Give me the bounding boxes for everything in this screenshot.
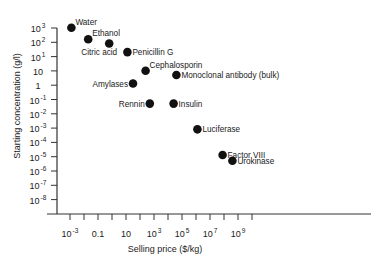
data-point: Amylases (93, 79, 138, 88)
point-label: Amylases (93, 80, 129, 89)
x-tick-label: 103 (147, 227, 162, 239)
data-point: Penicillin G (123, 48, 173, 57)
point-marker (193, 125, 202, 134)
y-tick-label: 10-3 (30, 122, 47, 134)
y-tick-label: 10-6 (30, 165, 47, 177)
point-marker (129, 79, 138, 88)
point-label: Citric acid (81, 48, 117, 57)
data-point: Luciferase (193, 125, 241, 134)
y-tick-label: 1 (35, 81, 40, 91)
point-label: Insulin (179, 100, 203, 109)
point-marker (172, 71, 181, 80)
x-tick-label: 107 (203, 227, 218, 239)
point-label: Urokinase (237, 157, 274, 166)
y-tick-label: 10-1 (30, 94, 47, 106)
point-label: Ethanol (92, 29, 120, 38)
x-axis-title: Selling price ($/kg) (128, 244, 203, 254)
point-marker (123, 48, 132, 57)
data-point: Ethanol (84, 29, 120, 43)
x-axis: 10-30.110103105107109 (47, 214, 371, 239)
point-marker (146, 99, 155, 108)
scatter-chart: 10310210110110-110-210-310-410-510-610-7… (0, 0, 385, 263)
y-tick-label: 10 (33, 67, 43, 77)
data-point: Urokinase (228, 156, 275, 165)
y-axis: 10310210110110-110-210-310-410-510-610-7… (30, 22, 57, 214)
y-tick-label: 101 (31, 51, 46, 63)
x-tick-label: 10 (121, 229, 131, 239)
y-tick-label: 10-4 (30, 136, 47, 148)
point-label: Penicillin G (132, 48, 173, 57)
x-tick-label: 0.1 (92, 229, 105, 239)
point-marker (228, 156, 237, 165)
point-marker (218, 151, 227, 160)
y-axis-title: Starting concentration (g/l) (12, 53, 22, 159)
y-tick-label: 102 (31, 36, 46, 48)
point-marker (169, 99, 178, 108)
data-points: WaterEthanolCitric acidPenicillin GCepha… (67, 18, 279, 166)
point-label: Cephalosporin (150, 61, 203, 70)
point-label: Luciferase (202, 125, 240, 134)
data-point: Monoclonal antibody (bulk) (172, 71, 279, 80)
x-tick-label: 109 (231, 227, 246, 239)
y-tick-label: 10-7 (30, 179, 47, 191)
x-tick-label: 105 (175, 227, 190, 239)
point-label: Water (75, 18, 97, 27)
y-tick-label: 10-8 (30, 194, 47, 206)
point-label: Monoclonal antibody (bulk) (181, 71, 279, 80)
y-tick-label: 10-5 (30, 151, 47, 163)
y-tick-label: 10-2 (30, 108, 47, 120)
point-label: Rennin (119, 100, 145, 109)
data-point: Insulin (169, 99, 202, 108)
x-tick-label: 10-3 (62, 227, 79, 239)
data-point: Rennin (119, 99, 154, 108)
y-tick-label: 103 (31, 22, 46, 34)
